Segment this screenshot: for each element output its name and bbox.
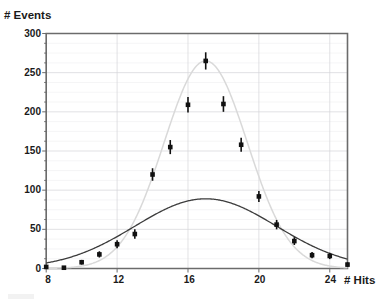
point-marker bbox=[203, 59, 208, 64]
x-tick-label: 20 bbox=[254, 274, 266, 285]
data-point bbox=[345, 262, 350, 267]
data-point bbox=[79, 260, 84, 265]
point-marker bbox=[79, 260, 84, 265]
point-marker bbox=[150, 172, 155, 177]
point-marker bbox=[186, 102, 191, 107]
point-marker bbox=[115, 242, 120, 247]
data-point bbox=[221, 96, 226, 112]
data-point bbox=[239, 138, 244, 152]
point-marker bbox=[345, 262, 350, 267]
chart-plot-svg: # Events 300 250 200 150 100 50 0 8 12 1… bbox=[0, 0, 377, 305]
data-points-group bbox=[44, 52, 350, 270]
x-tick-label: 16 bbox=[184, 274, 196, 285]
data-point bbox=[186, 97, 191, 113]
data-point bbox=[62, 265, 67, 270]
x-tick-label: 8 bbox=[45, 274, 51, 285]
point-marker bbox=[44, 265, 49, 270]
point-marker bbox=[97, 252, 102, 257]
data-point bbox=[97, 251, 102, 257]
data-point bbox=[133, 229, 138, 238]
chart-figure: # Events 300 250 200 150 100 50 0 8 12 1… bbox=[0, 0, 377, 305]
point-marker bbox=[274, 222, 279, 227]
data-point bbox=[44, 265, 49, 270]
data-point bbox=[327, 253, 332, 259]
major-gridlines bbox=[46, 34, 347, 269]
x-tick-label: 12 bbox=[113, 274, 125, 285]
y-tick-label: 200 bbox=[24, 106, 41, 117]
x-tick-label: 24 bbox=[325, 274, 337, 285]
gaussian-fit-broad-curve bbox=[46, 199, 347, 263]
point-marker bbox=[133, 232, 138, 237]
y-tick-label: 300 bbox=[24, 28, 41, 39]
point-marker bbox=[168, 145, 173, 150]
point-marker bbox=[239, 142, 244, 147]
data-point bbox=[310, 252, 315, 258]
point-marker bbox=[310, 253, 315, 258]
y-tick-label: 0 bbox=[35, 263, 41, 274]
point-marker bbox=[292, 239, 297, 244]
y-tick-label: 150 bbox=[24, 145, 41, 156]
y-axis-tick-labels: 300 250 200 150 100 50 0 bbox=[24, 28, 41, 274]
x-axis-title: # Hits bbox=[344, 274, 375, 286]
point-marker bbox=[62, 265, 67, 270]
page-artifact bbox=[8, 294, 34, 299]
x-axis-tick-labels: 8 12 16 20 24 bbox=[45, 274, 336, 285]
y-tick-label: 50 bbox=[30, 223, 42, 234]
data-point bbox=[203, 52, 208, 69]
data-point bbox=[115, 240, 120, 248]
data-point bbox=[292, 237, 297, 245]
data-point bbox=[257, 191, 262, 202]
y-axis-title: # Events bbox=[4, 9, 51, 21]
data-point bbox=[168, 140, 173, 154]
point-marker bbox=[221, 102, 226, 107]
y-tick-label: 250 bbox=[24, 67, 41, 78]
point-marker bbox=[257, 194, 262, 199]
y-tick-label: 100 bbox=[24, 184, 41, 195]
point-marker bbox=[327, 254, 332, 259]
